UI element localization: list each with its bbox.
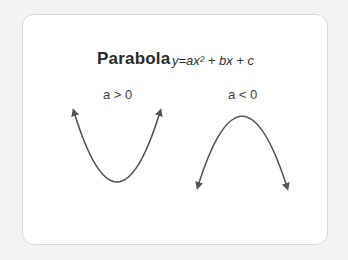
parabola-up-curve [74,112,160,182]
parabola-curves [0,0,348,260]
parabola-down-curve [198,116,287,187]
